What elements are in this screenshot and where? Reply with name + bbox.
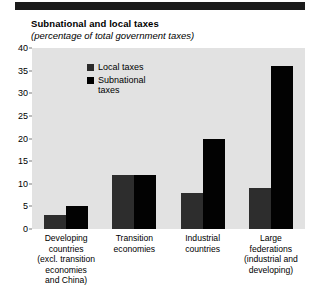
bar <box>134 175 156 229</box>
y-axis-tick-label: 30 <box>18 88 28 98</box>
x-axis-category-label: Industrialcountries <box>165 233 241 254</box>
y-axis-tick-label: 10 <box>18 179 28 189</box>
chart-page: Subnational and local taxes (percentage … <box>0 0 314 299</box>
y-axis-tick-label: 25 <box>18 111 28 121</box>
plot-area: 0510152025303540 Local taxes Subnational… <box>32 48 305 229</box>
y-axis-tick-label: 15 <box>18 156 28 166</box>
bar <box>181 193 203 229</box>
y-axis-tick-label: 20 <box>18 134 28 144</box>
x-axis-category-label: Transitioneconomies <box>96 233 172 254</box>
chart-subtitle: (percentage of total government taxes) <box>31 30 194 41</box>
bar-group <box>169 48 237 229</box>
chart-title: Subnational and local taxes <box>31 18 159 29</box>
bar <box>249 188 271 229</box>
bar-group <box>100 48 168 229</box>
bar <box>66 206 88 229</box>
x-axis-category-label: Developingcountries(excl. transitionecon… <box>28 233 104 286</box>
x-axis-category-label: Largefederations(industrial anddevelopin… <box>233 233 309 275</box>
x-axis-category-label-line: developing) <box>233 265 309 276</box>
bar <box>271 66 293 229</box>
header-rule <box>15 2 305 10</box>
x-axis-category-label-line: Industrial <box>165 233 241 244</box>
x-axis-category-labels: Developingcountries(excl. transitionecon… <box>0 233 314 299</box>
bar <box>203 139 225 230</box>
y-axis-tick-label: 40 <box>18 43 28 53</box>
x-axis-category-label-line: federations <box>233 244 309 255</box>
bar-group <box>237 48 305 229</box>
bar-group <box>32 48 100 229</box>
y-axis-tick-label: 35 <box>18 66 28 76</box>
x-axis-category-label-line: (excl. transition <box>28 254 104 265</box>
y-axis-tick-label: 5 <box>23 201 28 211</box>
x-axis-category-label-line: (industrial and <box>233 254 309 265</box>
x-axis-category-label-line: Transition <box>96 233 172 244</box>
x-axis-category-label-line: Large <box>233 233 309 244</box>
x-axis-category-label-line: economies <box>28 265 104 276</box>
x-axis-category-label-line: countries <box>165 244 241 255</box>
bar <box>112 175 134 229</box>
x-axis-category-label-line: and China) <box>28 275 104 286</box>
x-axis-category-label-line: countries <box>28 244 104 255</box>
x-axis-category-label-line: economies <box>96 244 172 255</box>
bar <box>44 215 66 229</box>
x-axis-category-label-line: Developing <box>28 233 104 244</box>
